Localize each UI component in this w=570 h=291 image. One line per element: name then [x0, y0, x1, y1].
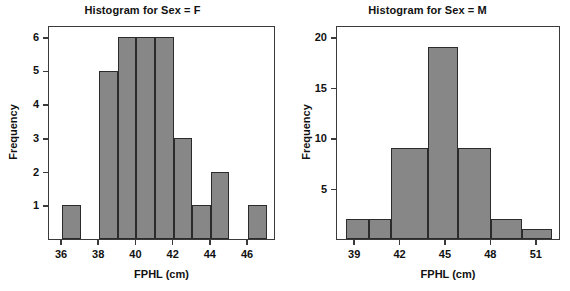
- y-tick-mark: [331, 88, 336, 90]
- x-axis-label-left: FPHL (cm): [48, 268, 275, 280]
- histogram-bar: [522, 229, 552, 239]
- y-tick-mark: [43, 138, 48, 140]
- histogram-bar: [211, 172, 230, 239]
- y-tick-label: 3: [6, 132, 39, 144]
- x-tick-label: 51: [516, 248, 556, 260]
- y-tick-mark: [331, 37, 336, 39]
- histogram-bar: [99, 71, 118, 240]
- y-tick-label: 20: [294, 31, 327, 43]
- y-tick-mark: [331, 138, 336, 140]
- x-tick-mark: [60, 240, 62, 245]
- x-tick-label: 46: [227, 248, 267, 260]
- y-tick-label: 5: [6, 64, 39, 76]
- x-tick-label: 40: [115, 248, 155, 260]
- x-tick-mark: [399, 240, 401, 245]
- x-tick-label: 39: [334, 248, 374, 260]
- y-tick-label: 4: [6, 98, 39, 110]
- y-tick-label: 15: [294, 82, 327, 94]
- y-tick-mark: [43, 37, 48, 39]
- chart-title-left: Histogram for Sex = F: [0, 4, 285, 16]
- x-tick-mark: [135, 240, 137, 245]
- histogram-bar: [428, 47, 458, 239]
- bars-left: [49, 27, 274, 239]
- y-tick-mark: [43, 205, 48, 207]
- histogram-bar: [458, 148, 491, 239]
- y-tick-mark: [43, 71, 48, 73]
- x-tick-label: 48: [470, 248, 510, 260]
- histogram-bar: [491, 219, 521, 239]
- histogram-bar: [174, 138, 193, 239]
- histogram-bar: [118, 37, 137, 239]
- y-tick-mark: [43, 104, 48, 106]
- x-tick-label: 45: [425, 248, 465, 260]
- chart-title-right: Histogram for Sex = M: [285, 4, 570, 16]
- x-tick-mark: [97, 240, 99, 245]
- histogram-bar: [192, 205, 211, 239]
- plot-area-right: [336, 26, 560, 240]
- histogram-bar: [346, 219, 369, 239]
- y-tick-label: 5: [294, 183, 327, 195]
- x-tick-label: 44: [190, 248, 230, 260]
- plot-area-left: [48, 26, 275, 240]
- histogram-bar: [155, 37, 174, 239]
- x-tick-label: 42: [153, 248, 193, 260]
- x-tick-mark: [535, 240, 537, 245]
- bars-right: [337, 27, 559, 239]
- x-tick-mark: [444, 240, 446, 245]
- histogram-bar: [391, 148, 427, 239]
- x-axis-label-right: FPHL (cm): [336, 268, 560, 280]
- panel-sex-m: Histogram for Sex = M Frequency 5101520 …: [285, 0, 570, 291]
- x-tick-label: 38: [78, 248, 118, 260]
- histogram-bar: [369, 219, 392, 239]
- y-tick-mark: [331, 189, 336, 191]
- y-tick-label: 10: [294, 132, 327, 144]
- x-tick-mark: [246, 240, 248, 245]
- histogram-bar: [248, 205, 267, 239]
- y-tick-label: 2: [6, 166, 39, 178]
- x-tick-mark: [209, 240, 211, 245]
- histogram-bar: [136, 37, 155, 239]
- x-tick-label: 36: [41, 248, 81, 260]
- y-tick-mark: [43, 172, 48, 174]
- x-tick-mark: [490, 240, 492, 245]
- y-tick-label: 1: [6, 199, 39, 211]
- y-tick-label: 6: [6, 31, 39, 43]
- x-tick-mark: [172, 240, 174, 245]
- histogram-figure: Histogram for Sex = F Frequency 123456 3…: [0, 0, 570, 291]
- histogram-bar: [62, 205, 81, 239]
- x-tick-label: 42: [380, 248, 420, 260]
- panel-sex-f: Histogram for Sex = F Frequency 123456 3…: [0, 0, 285, 291]
- x-tick-mark: [353, 240, 355, 245]
